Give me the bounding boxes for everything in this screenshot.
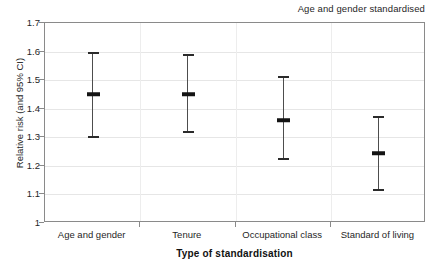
y-axis-tick-mark [39,22,44,23]
x-axis-tick-label: Standard of living [341,229,414,240]
ci-lower-cap [373,189,384,191]
point-estimate-marker[interactable] [372,151,385,155]
ci-upper-cap [88,52,99,54]
x-axis-tick-mark [235,222,236,227]
ci-lower-cap [88,136,99,138]
chart-figure: Age and gender standardised 11.11.21.31.… [0,0,429,267]
gridline [45,194,424,195]
category-separator [140,23,141,221]
x-axis-title: Type of standardisation [44,248,425,259]
gridline [45,137,424,138]
y-axis-tick-mark [39,79,44,80]
ci-upper-cap [278,76,289,78]
y-axis-tick-mark [39,51,44,52]
x-axis-tick-label: Occupational class [242,229,322,240]
x-axis-tick-label: Age and gender [58,229,126,240]
y-axis-tick-mark [39,165,44,166]
point-estimate-marker[interactable] [182,93,195,97]
ci-upper-cap [183,54,194,56]
ci-lower-cap [278,158,289,160]
x-axis-tick-label: Tenure [172,229,201,240]
ci-upper-cap [373,116,384,118]
gridline [45,166,424,167]
plot-area [44,22,425,222]
category-separator [331,23,332,221]
ci-lower-cap [183,131,194,133]
x-axis-tick-mark [330,222,331,227]
gridline [45,109,424,110]
chart-annotation: Age and gender standardised [298,3,425,14]
y-axis-tick-mark [39,222,44,223]
y-axis-tick-label: 1 [14,217,40,228]
point-estimate-marker[interactable] [87,93,100,97]
category-separator [236,23,237,221]
point-estimate-marker[interactable] [277,118,290,122]
y-axis-tick-mark [39,108,44,109]
y-axis-tick-mark [39,193,44,194]
confidence-interval-line [283,76,284,159]
gridline [45,52,424,53]
gridline [45,80,424,81]
x-axis-tick-mark [139,222,140,227]
y-axis-tick-mark [39,136,44,137]
